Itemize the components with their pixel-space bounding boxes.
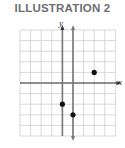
coordinate-graph: y x xyxy=(0,0,125,148)
data-point xyxy=(70,112,75,117)
line-arrow-down-icon xyxy=(71,136,75,141)
graph-overlay xyxy=(20,25,121,141)
y-axis-label: y xyxy=(58,18,63,28)
data-point xyxy=(60,102,65,107)
line-arrow-up-icon xyxy=(71,25,75,30)
data-point xyxy=(92,70,97,75)
x-axis-label: x xyxy=(117,77,122,87)
